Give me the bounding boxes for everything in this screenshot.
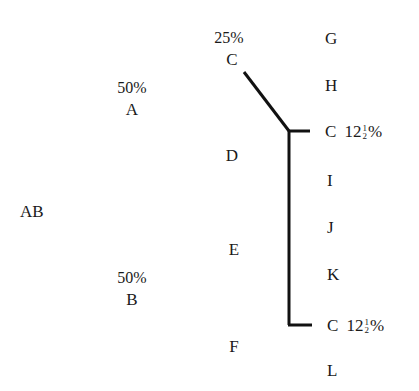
gen3-c-upper-whole: 12 [345, 122, 362, 141]
gen3-j-label: J [327, 219, 334, 236]
gen3-c-upper-fraction: 12 [363, 124, 368, 140]
gen3-c-lower-fraction: 12 [365, 318, 370, 334]
gen3-c-lower-whole: 12 [347, 316, 364, 335]
gen1-b-label: B [110, 291, 154, 308]
gen3-c-lower-label: C [327, 316, 338, 335]
gen1-b-percent: 50% [110, 270, 154, 286]
gen3-i-label: I [327, 172, 333, 189]
gen3-h-label: H [325, 77, 337, 94]
gen2-e-label: E [212, 241, 256, 258]
gen2-d-label: D [210, 147, 254, 164]
gen1-a-label: A [110, 101, 154, 118]
gen1-a-percent: 50% [110, 80, 154, 96]
gen3-c-lower: C 1212% [327, 317, 384, 335]
gen2-c-percent: 25% [207, 30, 251, 46]
gen3-k-label: K [327, 266, 339, 283]
root-label-ab: AB [20, 203, 44, 220]
gen3-c-upper-label: C [325, 122, 336, 141]
gen3-g-label: G [325, 30, 337, 47]
connector-c-diagonal [244, 72, 289, 131]
gen3-c-upper: C 1212% [325, 123, 382, 141]
gen2-c-label: C [210, 51, 254, 68]
gen3-c-lower-percent-sign: % [370, 316, 384, 335]
gen3-l-label: L [327, 362, 337, 379]
gen2-f-label: F [212, 338, 256, 355]
gen3-c-upper-percent-sign: % [368, 122, 382, 141]
